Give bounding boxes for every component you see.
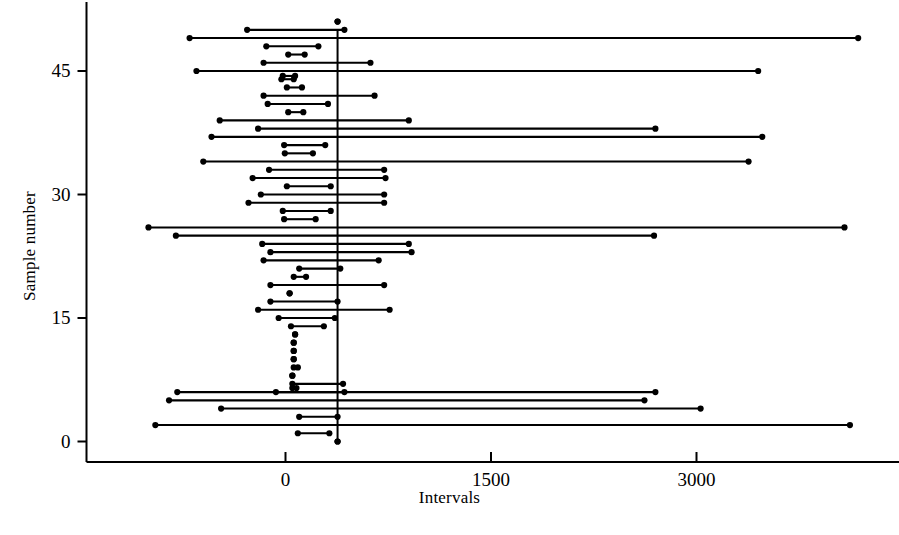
interval-endpoint-marker [289,373,295,379]
interval-endpoint-marker [193,68,199,74]
interval-endpoint-marker [328,208,334,214]
interval-endpoint-marker [334,298,340,304]
interval-endpoint-marker [187,35,193,41]
interval-endpoint-marker [217,117,223,123]
y-tick-label: 45 [52,60,71,81]
interval-endpoint-marker [292,73,298,79]
interval-endpoint-marker [406,241,412,247]
interval-endpoint-marker [302,51,308,57]
interval-endpoint-marker [387,307,393,313]
x-tick-label: 3000 [678,469,716,490]
interval-endpoint-marker [296,414,302,420]
interval-endpoint-marker [260,257,266,263]
interval-endpoint-marker [218,405,224,411]
interval-endpoint-marker [285,109,291,115]
interval-endpoint-marker [145,224,151,230]
y-tick-label: 0 [61,431,71,452]
interval-endpoint-marker [325,101,331,107]
interval-endpoint-marker [698,405,704,411]
interval-endpoint-marker [250,175,256,181]
interval-endpoint-marker [291,356,297,362]
interval-plot-svg: 0153045015003000 [0,0,899,535]
interval-endpoint-marker [284,183,290,189]
interval-endpoint-marker [326,430,332,436]
interval-endpoint-marker [291,274,297,280]
interval-endpoint-marker [266,167,272,173]
interval-endpoint-marker [284,84,290,90]
interval-endpoint-marker [291,340,297,346]
interval-endpoint-marker [652,389,658,395]
interval-endpoint-marker [321,323,327,329]
interval-endpoint-marker [255,126,261,132]
interval-endpoint-marker [288,323,294,329]
y-axis-title: Sample number [20,146,40,346]
y-tick-label: 30 [52,184,71,205]
interval-endpoint-marker [337,266,343,272]
interval-endpoint-marker [328,183,334,189]
interval-endpoint-marker [841,224,847,230]
x-tick-label: 1500 [472,469,510,490]
interval-endpoint-marker [263,43,269,49]
interval-endpoint-marker [313,216,319,222]
interval-endpoint-marker [408,249,414,255]
interval-endpoint-marker [847,422,853,428]
interval-endpoint-marker [310,150,316,156]
interval-endpoint-marker [334,438,340,444]
interval-endpoint-marker [255,307,261,313]
interval-endpoint-marker [285,51,291,57]
interval-endpoint-marker [259,241,265,247]
interval-endpoint-marker [315,43,321,49]
interval-endpoint-marker [651,233,657,239]
interval-endpoint-marker [300,109,306,115]
interval-endpoint-marker [267,298,273,304]
interval-endpoint-marker [280,73,286,79]
interval-endpoint-marker [258,191,264,197]
interval-endpoint-marker [152,422,158,428]
y-tick-label: 15 [52,307,71,328]
interval-endpoint-marker [755,68,761,74]
interval-endpoint-marker [381,191,387,197]
interval-endpoint-marker [652,126,658,132]
interval-endpoint-marker [281,216,287,222]
interval-endpoint-marker [281,142,287,148]
interval-endpoint-marker [200,158,206,164]
interval-endpoint-marker [406,117,412,123]
chart-figure: 0153045015003000 Intervals Sample number [0,0,899,535]
interval-endpoint-marker [641,397,647,403]
interval-endpoint-marker [295,430,301,436]
interval-endpoint-marker [381,200,387,206]
interval-endpoint-marker [381,282,387,288]
interval-endpoint-marker [245,200,251,206]
interval-endpoint-marker [371,93,377,99]
x-axis-title: Intervals [0,488,899,508]
interval-endpoint-marker [260,93,266,99]
interval-endpoint-marker [303,274,309,280]
interval-endpoint-marker [166,397,172,403]
interval-endpoint-marker [855,35,861,41]
interval-endpoint-marker [340,381,346,387]
interval-endpoint-marker [341,27,347,33]
interval-endpoint-marker [295,364,301,370]
interval-endpoint-marker [282,150,288,156]
interval-endpoint-marker [173,233,179,239]
interval-endpoint-marker [334,414,340,420]
interval-endpoint-marker [260,60,266,66]
interval-series-group [145,19,861,445]
interval-endpoint-marker [292,331,298,337]
interval-endpoint-marker [208,134,214,140]
interval-endpoint-marker [174,389,180,395]
interval-endpoint-marker [381,167,387,173]
x-tick-label: 0 [281,469,291,490]
interval-endpoint-marker [332,315,338,321]
interval-endpoint-marker [334,19,340,25]
interval-endpoint-marker [376,257,382,263]
interval-endpoint-marker [287,290,293,296]
interval-endpoint-marker [276,315,282,321]
interval-endpoint-marker [299,84,305,90]
interval-endpoint-marker [267,249,273,255]
interval-endpoint-marker [759,134,765,140]
interval-endpoint-marker [382,175,388,181]
interval-endpoint-marker [267,282,273,288]
interval-endpoint-marker [291,348,297,354]
interval-endpoint-marker [280,208,286,214]
